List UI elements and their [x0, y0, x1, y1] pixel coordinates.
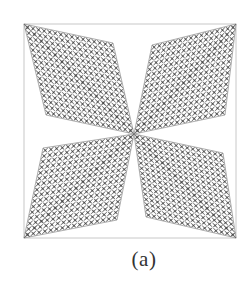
- blade-bottom-left: [24, 134, 134, 238]
- figure-caption: (a): [0, 247, 252, 272]
- blade-top-right: [134, 24, 236, 134]
- fractal-figure: [0, 0, 252, 250]
- blade-top-left: [24, 24, 134, 134]
- blade-bottom-right: [134, 134, 236, 238]
- fractal-pattern: [24, 24, 134, 134]
- blade-group: [24, 24, 236, 238]
- fractal-pattern: [24, 134, 134, 238]
- fractal-pattern: [134, 24, 236, 134]
- fractal-pattern: [134, 134, 236, 238]
